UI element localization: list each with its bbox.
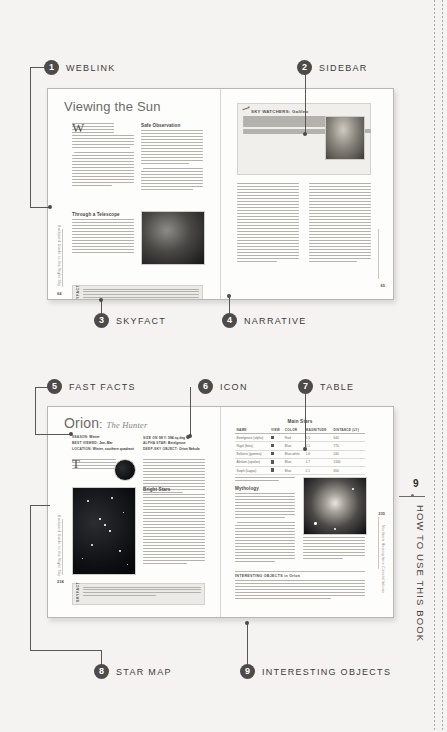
cell-distance: 240 <box>332 450 365 458</box>
skyfact-box: SKYFACT <box>72 285 203 299</box>
callout-narrative[interactable]: 4 NARRATIVE <box>222 313 307 328</box>
callout-label-icon: ICON <box>220 382 248 392</box>
cell-name: Alnilam (epsilon) <box>235 458 269 466</box>
callout-number-2: 2 <box>297 60 312 75</box>
callout-skyfact[interactable]: 3 SKYFACT <box>94 313 166 328</box>
fast-facts-left: SEASON: Winter BEST VIEWED: Jan–Mar LOCA… <box>72 435 134 452</box>
narrative-column-2: Safe Observation <box>141 123 203 192</box>
narrative-column-3: Through a Telescope <box>72 212 134 255</box>
right-margin-rule-2 <box>378 517 379 569</box>
table-title: Main Stars <box>235 419 365 424</box>
cell-magnitude: 2.1 <box>304 466 332 474</box>
leader-5-h2 <box>35 434 71 435</box>
leader-7-v <box>305 387 306 449</box>
cell-name: Saiph (kappa) <box>235 466 269 474</box>
running-head: HOW TO USE THIS BOOK <box>415 505 426 642</box>
view-swatch-icon <box>271 452 274 455</box>
orion-narrative-4: Mythology <box>235 477 295 564</box>
callout-fast-facts[interactable]: 5 FAST FACTS <box>47 379 136 394</box>
skyfact-label: SKYFACT <box>76 289 80 300</box>
fast-facts-right: SIZE ON SKY: 594 sq deg ALPHA STAR: Bete… <box>143 435 209 453</box>
inset-circle-photo <box>114 459 136 481</box>
leader-3-v <box>101 300 102 314</box>
interesting-objects-text <box>235 580 365 599</box>
leader-8-v2 <box>101 650 102 665</box>
table-col-view: VIEW <box>269 427 283 434</box>
leader-6-dot <box>188 434 192 438</box>
folio-dot <box>411 494 414 497</box>
leader-4-v <box>229 296 230 314</box>
cell-color: Blue <box>283 458 304 466</box>
leader-2-v <box>305 67 306 134</box>
callout-number-5: 5 <box>47 379 62 394</box>
table-row: Betelgeuse (alpha) Red 0.5 640 <box>235 434 365 442</box>
page-title: Viewing the Sun <box>64 99 161 114</box>
galileo-portrait <box>325 116 365 160</box>
leader-8-v <box>30 505 31 650</box>
callout-number-1: 1 <box>44 60 59 75</box>
how-to-use-this-book-page: 9 HOW TO USE THIS BOOK Viewing the Sun W <box>0 0 447 732</box>
cell-view <box>269 442 283 450</box>
table-row: Saiph (kappa) Blue 2.1 650 <box>235 466 365 474</box>
pointer-arrow-icon <box>242 107 250 114</box>
cell-name: Rigel (beta) <box>235 442 269 450</box>
callout-sidebar[interactable]: 2 SIDEBAR <box>297 60 368 75</box>
cell-magnitude: 0.1 <box>304 442 332 450</box>
dotted-rule-inner <box>442 0 443 732</box>
orion-right-page: Main Stars NAME VIEW COLOR MAGNITUDE DIS… <box>221 407 393 617</box>
callout-weblink[interactable]: 1 WEBLINK <box>44 60 116 75</box>
leader-8-h <box>30 505 50 506</box>
skyfact-text-2 <box>83 587 201 602</box>
callout-label-narrative: NARRATIVE <box>244 316 307 326</box>
heading-bright-stars: Bright Stars <box>143 487 205 492</box>
cell-name: Bellatrix (gamma) <box>235 450 269 458</box>
leader-3-dot <box>99 298 103 302</box>
callout-star-map[interactable]: 8 STAR MAP <box>94 664 172 679</box>
table-row: Bellatrix (gamma) Blue-white 1.6 240 <box>235 450 365 458</box>
left-page-number-2: 234 <box>57 579 64 584</box>
leader-5-dot <box>69 432 73 436</box>
leader-6-v <box>190 387 191 436</box>
cell-color: Blue-white <box>283 450 304 458</box>
table-row: Alnilam (epsilon) Blue 1.7 1340 <box>235 458 365 466</box>
table-col-distance: DISTANCE (LY) <box>332 427 365 434</box>
sidebar-box: SKY WATCHERS: Galileo <box>237 103 371 175</box>
table-col-color: COLOR <box>283 427 304 434</box>
view-swatch-icon <box>271 468 274 471</box>
callout-label-skyfact: SKYFACT <box>116 316 166 326</box>
callout-interesting-objects[interactable]: 9 INTERESTING OBJECTS <box>240 664 391 679</box>
view-swatch-icon <box>271 460 274 463</box>
skyfact-label-2: SKYFACT <box>76 587 80 602</box>
drop-cap: W <box>72 123 84 133</box>
right-page-number: 65 <box>381 283 385 288</box>
leader-9-v <box>247 623 248 665</box>
callout-icon[interactable]: 6 ICON <box>198 379 248 394</box>
cell-view <box>269 434 283 442</box>
cell-color: Blue <box>283 466 304 474</box>
callout-number-8: 8 <box>94 664 109 679</box>
constellation-subtitle: The Hunter <box>107 420 148 430</box>
spread-right-page: SKY WATCHERS: Galileo <box>221 89 393 299</box>
cell-magnitude: 1.6 <box>304 450 332 458</box>
constellation-name: Orion <box>64 415 99 431</box>
spread-left-page: Viewing the Sun W Safe Observation <box>48 89 220 299</box>
cell-distance: 770 <box>332 442 365 450</box>
view-swatch-icon <box>271 436 274 439</box>
right-page-number-2: 235 <box>378 511 385 516</box>
cell-view <box>269 458 283 466</box>
main-stars-table: Main Stars NAME VIEW COLOR MAGNITUDE DIS… <box>235 419 365 475</box>
narrative-column-1: W <box>72 123 134 188</box>
callout-label-weblink: WEBLINK <box>66 63 116 73</box>
sun-photo <box>141 211 205 265</box>
callout-number-4: 4 <box>222 313 237 328</box>
callout-label-interesting-objects: INTERESTING OBJECTS <box>262 667 391 677</box>
photo-caption <box>303 537 365 561</box>
orion-narrative-3: Bright Stars <box>143 487 205 566</box>
callout-number-9: 9 <box>240 664 255 679</box>
margin-running-text-2: Backyard Guide to the Night Sky <box>57 515 61 576</box>
callout-label-sidebar: SIDEBAR <box>319 63 368 73</box>
callout-table[interactable]: 7 TABLE <box>298 379 354 394</box>
heading-safe-observation: Safe Observation <box>141 123 203 128</box>
constellation-title: Orion: The Hunter <box>64 415 148 431</box>
star-map <box>72 487 136 575</box>
